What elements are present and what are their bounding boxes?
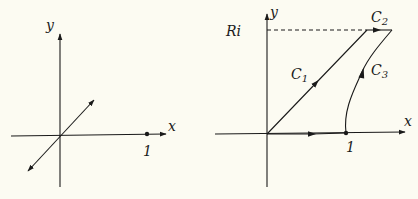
left-one-label: 1 [143, 143, 152, 159]
right-one-label: 1 [346, 139, 355, 155]
diagram-canvas: y x 1 y x 1 Ri C1 C2 C3 [0, 0, 418, 199]
c2-label: C2 [371, 9, 388, 27]
right-y-label: y [269, 4, 279, 20]
c3-label: C3 [371, 62, 388, 80]
left-y-label: y [45, 17, 55, 33]
left-point-one [145, 132, 149, 136]
left-x-label: x [168, 118, 176, 134]
right-diagram: y x 1 Ri C1 C2 C3 [215, 4, 412, 187]
ri-label: Ri [225, 23, 241, 39]
c3-arrowhead [357, 68, 365, 80]
left-diagram: y x 1 [11, 17, 176, 187]
right-x-label: x [404, 113, 412, 129]
contour-c1 [267, 30, 367, 134]
right-point-one [344, 131, 348, 135]
c1-label: C1 [291, 66, 308, 84]
left-x-axis [11, 134, 166, 136]
